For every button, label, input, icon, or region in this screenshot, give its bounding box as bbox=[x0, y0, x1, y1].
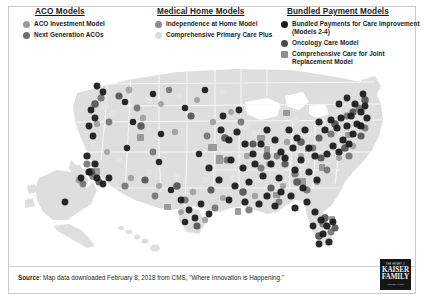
legend-item-label: Bundled Payments for Care Improvement (M… bbox=[292, 20, 421, 36]
circle-marker-icon bbox=[23, 21, 30, 28]
map-legend: ACO Models ACO Investment Model Next Gen… bbox=[9, 7, 415, 67]
legend-item-label: ACO Investment Model bbox=[34, 20, 105, 28]
legend-title-medical-home-models: Medical Home Models bbox=[157, 7, 281, 16]
legend-title-bundled-payment-models: Bundled Payment Models bbox=[287, 7, 421, 16]
us-map[interactable] bbox=[9, 60, 415, 265]
legend-item-next-generation-acos[interactable]: Next Generation ACOs bbox=[23, 31, 151, 39]
figure-footer: Source: Map data downloaded February 8, … bbox=[9, 266, 415, 293]
legend-item-label: Independence at Home Model bbox=[166, 20, 258, 28]
circle-marker-icon bbox=[281, 21, 288, 28]
logo-line-3: FAMILY bbox=[382, 274, 409, 281]
legend-column-aco-models: ACO Models ACO Investment Model Next Gen… bbox=[23, 7, 151, 41]
us-map-svg bbox=[9, 60, 415, 265]
legend-item-bundled-payments-for-care-improvement[interactable]: Bundled Payments for Care Improvement (M… bbox=[281, 20, 421, 36]
hawaii-inset bbox=[118, 226, 160, 252]
logo-line-4: FOUNDATION bbox=[387, 283, 404, 286]
circle-marker-icon bbox=[155, 21, 162, 28]
circle-marker-icon bbox=[155, 32, 162, 39]
square-marker-icon bbox=[281, 51, 288, 58]
legend-item-aco-investment-model[interactable]: ACO Investment Model bbox=[23, 20, 151, 28]
legend-item-comprehensive-primary-care-plus[interactable]: Comprehensive Primary Care Plus bbox=[155, 31, 281, 39]
legend-column-medical-home-models: Medical Home Models Independence at Home… bbox=[155, 7, 281, 41]
source-note: Source: Map data downloaded February 8, … bbox=[18, 274, 284, 281]
source-text: : Map data downloaded February 8, 2018 f… bbox=[39, 274, 283, 281]
legend-item-independence-at-home-model[interactable]: Independence at Home Model bbox=[155, 20, 281, 28]
legend-item-label: Oncology Care Model bbox=[292, 39, 359, 47]
kaiser-family-foundation-logo[interactable]: THE HENRY J. KAISER FAMILY FOUNDATION bbox=[380, 259, 411, 290]
source-label: Source bbox=[18, 274, 39, 281]
circle-marker-icon bbox=[23, 32, 30, 39]
legend-item-label: Next Generation ACOs bbox=[34, 31, 104, 39]
legend-item-oncology-care-model[interactable]: Oncology Care Model bbox=[281, 39, 421, 47]
legend-title-aco-models: ACO Models bbox=[35, 7, 151, 16]
legend-item-label: Comprehensive Primary Care Plus bbox=[166, 31, 272, 39]
circle-marker-icon bbox=[281, 40, 288, 47]
figure-root: ACO Models ACO Investment Model Next Gen… bbox=[0, 0, 424, 302]
